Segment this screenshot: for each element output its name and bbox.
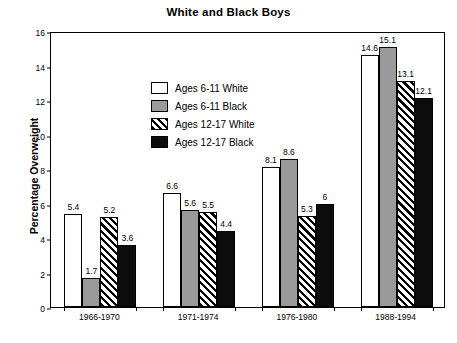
bar-slot: 1.7 xyxy=(82,33,100,307)
bar-value-label: 12.1 xyxy=(415,87,432,96)
y-axis-title: Percentage Overweight xyxy=(28,86,40,266)
x-axis-category-label: 1988-1994 xyxy=(375,312,416,322)
legend-item[interactable]: Ages 6-11 White xyxy=(151,79,255,97)
y-tick-mark xyxy=(47,205,51,206)
x-tick-mark xyxy=(433,307,434,311)
legend-swatch-icon xyxy=(151,136,168,148)
legend-swatch-icon xyxy=(151,118,168,130)
bar-slot: 13.1 xyxy=(397,33,415,307)
bar[interactable] xyxy=(280,159,298,307)
bar-value-label: 14.6 xyxy=(361,44,378,53)
x-tick-mark xyxy=(136,307,137,311)
bar-slot: 6.6 xyxy=(163,33,181,307)
chart-container: White and Black Boys Percentage Overweig… xyxy=(0,0,457,343)
bar-value-label: 4.4 xyxy=(220,220,232,229)
bar-slot: 5.3 xyxy=(298,33,316,307)
bar-group: 5.41.75.23.6 xyxy=(64,33,136,307)
legend-swatch-icon xyxy=(151,82,168,94)
bar[interactable] xyxy=(64,214,82,307)
y-tick-mark xyxy=(47,102,51,103)
bar-value-label: 5.2 xyxy=(103,206,115,215)
bar-value-label: 5.6 xyxy=(184,199,196,208)
bar[interactable] xyxy=(316,204,334,308)
bar-value-label: 6.6 xyxy=(166,182,178,191)
y-tick-mark xyxy=(47,67,51,68)
x-axis-category-label: 1966-1970 xyxy=(79,312,120,322)
y-tick-mark xyxy=(47,136,51,137)
y-tick-mark xyxy=(47,240,51,241)
bar-group: 14.615.113.112.1 xyxy=(361,33,433,307)
bar[interactable] xyxy=(379,47,397,307)
x-tick-mark xyxy=(163,307,164,311)
x-axis-category-label: 1971-1974 xyxy=(178,312,219,322)
bar-group: 8.18.65.36 xyxy=(262,33,334,307)
y-tick-mark xyxy=(47,33,51,34)
bar-slot: 3.6 xyxy=(118,33,136,307)
bar-slot: 5.5 xyxy=(199,33,217,307)
bar-slot: 12.1 xyxy=(415,33,433,307)
x-tick-mark xyxy=(235,307,236,311)
bar[interactable] xyxy=(415,98,433,307)
bar[interactable] xyxy=(298,216,316,307)
y-tick-mark xyxy=(47,309,51,310)
bar-value-label: 15.1 xyxy=(379,36,396,45)
bar-value-label: 3.6 xyxy=(121,234,133,243)
bar[interactable] xyxy=(397,81,415,307)
bar-value-label: 5.4 xyxy=(67,203,79,212)
legend-item-label: Ages 12-17 White xyxy=(175,119,255,130)
bar-value-label: 5.3 xyxy=(301,205,313,214)
bar[interactable] xyxy=(199,212,217,307)
bar-value-label: 1.7 xyxy=(85,267,97,276)
bar[interactable] xyxy=(262,167,280,307)
bar-value-label: 5.5 xyxy=(202,201,214,210)
chart-title: White and Black Boys xyxy=(0,6,457,18)
bar-value-label: 6 xyxy=(323,193,328,202)
x-axis-category-label: 1976-1980 xyxy=(277,312,318,322)
bar[interactable] xyxy=(82,278,100,307)
bar-slot: 8.1 xyxy=(262,33,280,307)
bar[interactable] xyxy=(100,217,118,307)
legend-item-label: Ages 6-11 Black xyxy=(175,101,247,112)
bar-group: 6.65.65.54.4 xyxy=(163,33,235,307)
legend-item-label: Ages 6-11 White xyxy=(175,83,248,94)
bar-slot: 5.2 xyxy=(100,33,118,307)
x-tick-mark xyxy=(361,307,362,311)
plot-area: 0246810121416 5.41.75.23.66.65.65.54.48.… xyxy=(50,32,445,308)
bar-slot: 5.4 xyxy=(64,33,82,307)
legend-swatch-icon xyxy=(151,100,168,112)
bar-slot: 4.4 xyxy=(217,33,235,307)
legend-item-label: Ages 12-17 Black xyxy=(175,137,253,148)
bar-slot: 14.6 xyxy=(361,33,379,307)
bar-value-label: 8.1 xyxy=(265,156,277,165)
x-tick-mark xyxy=(334,307,335,311)
bar[interactable] xyxy=(361,55,379,307)
legend-item[interactable]: Ages 12-17 White xyxy=(151,115,255,133)
y-tick-mark xyxy=(47,171,51,172)
bar[interactable] xyxy=(163,193,181,307)
bar[interactable] xyxy=(217,231,235,307)
bar[interactable] xyxy=(118,245,136,307)
bar-slot: 5.6 xyxy=(181,33,199,307)
bar-value-label: 13.1 xyxy=(397,70,414,79)
legend-item[interactable]: Ages 6-11 Black xyxy=(151,97,255,115)
bar-slot: 8.6 xyxy=(280,33,298,307)
bar[interactable] xyxy=(181,210,199,307)
chart-legend: Ages 6-11 WhiteAges 6-11 BlackAges 12-17… xyxy=(151,79,255,151)
bar-slot: 15.1 xyxy=(379,33,397,307)
y-tick-mark xyxy=(47,274,51,275)
legend-item[interactable]: Ages 12-17 Black xyxy=(151,133,255,151)
x-tick-mark xyxy=(262,307,263,311)
bar-slot: 6 xyxy=(316,33,334,307)
bar-value-label: 8.6 xyxy=(283,148,295,157)
x-tick-mark xyxy=(64,307,65,311)
